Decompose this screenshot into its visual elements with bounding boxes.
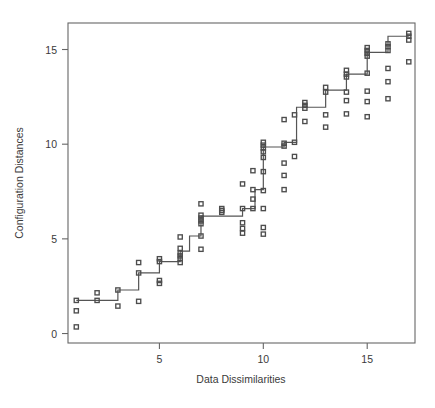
plot-background <box>0 0 435 408</box>
x-tick-label: 10 <box>257 353 269 365</box>
y-axis-title: Configuration Distances <box>13 127 25 238</box>
x-tick-label: 5 <box>157 353 163 365</box>
shepard-diagram: 51015 051015 Data Dissimilarities Config… <box>0 0 435 408</box>
y-tick-label: 10 <box>45 138 57 150</box>
y-tick-label: 5 <box>51 233 57 245</box>
shepard-plot-page: 51015 051015 Data Dissimilarities Config… <box>0 0 435 408</box>
x-tick-label: 15 <box>361 353 373 365</box>
y-tick-label: 0 <box>51 328 57 340</box>
x-axis-title: Data Dissimilarities <box>196 373 285 385</box>
y-tick-label: 15 <box>45 44 57 56</box>
